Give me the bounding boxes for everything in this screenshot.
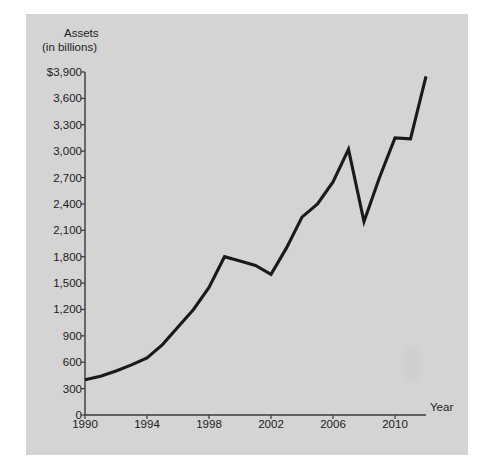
- x-tick-label: 1990: [72, 418, 98, 430]
- bottom-cut-off-caption: [0, 459, 492, 471]
- x-tick-label: 2006: [320, 418, 346, 430]
- x-axis-title: Year: [430, 401, 453, 413]
- x-tick-label: 1998: [196, 418, 222, 430]
- x-tick-label: 2010: [382, 418, 408, 430]
- x-axis-labels: 199019941998200220062010: [26, 14, 468, 455]
- x-tick-label: 1994: [134, 418, 160, 430]
- x-tick-label: 2002: [258, 418, 284, 430]
- chart-panel: Assets (in billions) 03006009001,2001,50…: [26, 14, 468, 455]
- plot-area: 03006009001,2001,5001,8002,1002,4002,700…: [26, 14, 468, 455]
- scan-artifact-smudge: [405, 346, 419, 380]
- top-cut-off-text: [0, 0, 492, 13]
